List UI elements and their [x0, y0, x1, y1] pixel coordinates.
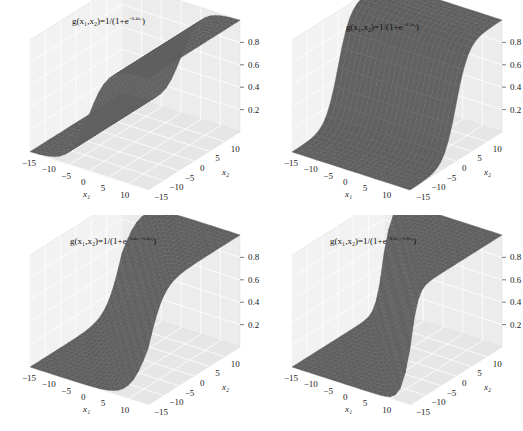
svg-text:5: 5 — [363, 398, 368, 408]
svg-text:10: 10 — [493, 144, 503, 154]
subplot-title: g(x₁,x₂)=1/(1+e−0.5x₂) — [346, 22, 419, 32]
svg-text:0: 0 — [81, 177, 86, 187]
svg-text:5: 5 — [101, 183, 106, 193]
svg-text:−10: −10 — [169, 397, 184, 407]
svg-text:−10: −10 — [42, 164, 57, 174]
svg-text:−5: −5 — [61, 171, 71, 181]
svg-text:0.8: 0.8 — [510, 252, 522, 262]
svg-text:x₂: x₂ — [483, 382, 491, 392]
svg-text:0.4: 0.4 — [510, 297, 522, 307]
svg-text:−15: −15 — [154, 407, 169, 417]
svg-text:10: 10 — [120, 405, 130, 415]
svg-text:5: 5 — [363, 183, 368, 193]
svg-text:−15: −15 — [416, 192, 431, 202]
svg-text:5: 5 — [477, 368, 482, 378]
svg-text:10: 10 — [382, 405, 392, 415]
svg-text:5: 5 — [215, 368, 220, 378]
svg-text:x₁: x₁ — [344, 404, 352, 414]
svg-text:x₂: x₂ — [483, 167, 491, 177]
svg-text:5: 5 — [477, 153, 482, 163]
subplot-title: g(x₁,x₂)=1/(1+e−0.8x₁−0.8x₂) — [330, 236, 416, 246]
subplot-top-right: −15−10−50510−15−10−505100.20.40.60.8x₁x₂… — [262, 0, 523, 215]
svg-text:10: 10 — [382, 190, 392, 200]
surface-plot: −15−10−50510−15−10−505100.20.40.60.8x₁x₂… — [262, 215, 523, 431]
svg-text:0.2: 0.2 — [510, 105, 521, 115]
svg-text:0: 0 — [200, 163, 205, 173]
svg-text:−10: −10 — [42, 379, 57, 389]
subplot-top-left: −15−10−50510−15−10−505100.20.40.60.8x₁x₂… — [0, 0, 261, 215]
svg-text:0.4: 0.4 — [248, 297, 260, 307]
svg-text:−15: −15 — [416, 407, 431, 417]
svg-text:0.8: 0.8 — [510, 37, 522, 47]
svg-text:0.4: 0.4 — [248, 82, 260, 92]
svg-text:0.2: 0.2 — [248, 105, 259, 115]
svg-text:0: 0 — [343, 392, 348, 402]
svg-text:−5: −5 — [447, 173, 457, 183]
svg-text:0.6: 0.6 — [248, 60, 260, 70]
svg-text:0.8: 0.8 — [248, 252, 260, 262]
svg-text:5: 5 — [215, 153, 220, 163]
svg-text:10: 10 — [231, 144, 241, 154]
svg-text:10: 10 — [493, 359, 503, 369]
svg-text:x₁: x₁ — [82, 404, 90, 414]
svg-text:−5: −5 — [61, 386, 71, 396]
subplot-bottom-right: −15−10−50510−15−10−505100.20.40.60.8x₁x₂… — [262, 215, 523, 430]
svg-text:−5: −5 — [323, 386, 333, 396]
svg-text:−10: −10 — [431, 397, 446, 407]
svg-text:0.6: 0.6 — [248, 275, 260, 285]
svg-text:−10: −10 — [304, 164, 319, 174]
svg-text:−15: −15 — [284, 158, 299, 168]
svg-text:−15: −15 — [284, 373, 299, 383]
svg-text:−10: −10 — [169, 182, 184, 192]
svg-text:0.4: 0.4 — [510, 82, 522, 92]
svg-text:−10: −10 — [304, 379, 319, 389]
svg-text:0.6: 0.6 — [510, 60, 522, 70]
svg-text:−5: −5 — [185, 388, 195, 398]
surface-plot: −15−10−50510−15−10−505100.20.40.60.8x₁x₂… — [0, 0, 261, 215]
svg-text:−15: −15 — [22, 373, 37, 383]
svg-text:−5: −5 — [447, 388, 457, 398]
svg-text:0.8: 0.8 — [248, 37, 260, 47]
svg-text:10: 10 — [120, 190, 130, 200]
subplot-title: g(x₁,x₂)=1/(1+e−0.4x₁−0.4x₂) — [70, 236, 156, 246]
subplot-bottom-left: −15−10−50510−15−10−505100.20.40.60.8x₁x₂… — [0, 215, 261, 430]
svg-text:0.2: 0.2 — [510, 320, 521, 330]
svg-text:−10: −10 — [431, 182, 446, 192]
svg-text:x₂: x₂ — [221, 382, 229, 392]
svg-text:0: 0 — [462, 378, 467, 388]
svg-text:x₂: x₂ — [221, 167, 229, 177]
subplot-title: g(x₁,x₂)=1/(1+e−0.4x₁) — [72, 16, 145, 26]
svg-text:x₁: x₁ — [344, 189, 352, 199]
surface-plot: −15−10−50510−15−10−505100.20.40.60.8x₁x₂… — [0, 215, 261, 431]
svg-text:0: 0 — [462, 163, 467, 173]
svg-text:−15: −15 — [22, 158, 37, 168]
surface-plot: −15−10−50510−15−10−505100.20.40.60.8x₁x₂… — [262, 0, 523, 215]
svg-text:0: 0 — [343, 177, 348, 187]
svg-text:0.6: 0.6 — [510, 275, 522, 285]
svg-text:−5: −5 — [185, 173, 195, 183]
svg-text:0: 0 — [200, 378, 205, 388]
svg-text:5: 5 — [101, 398, 106, 408]
svg-text:0: 0 — [81, 392, 86, 402]
svg-text:0.2: 0.2 — [248, 320, 259, 330]
svg-text:−5: −5 — [323, 171, 333, 181]
svg-text:x₁: x₁ — [82, 189, 90, 199]
svg-text:10: 10 — [231, 359, 241, 369]
svg-text:−15: −15 — [154, 192, 169, 202]
